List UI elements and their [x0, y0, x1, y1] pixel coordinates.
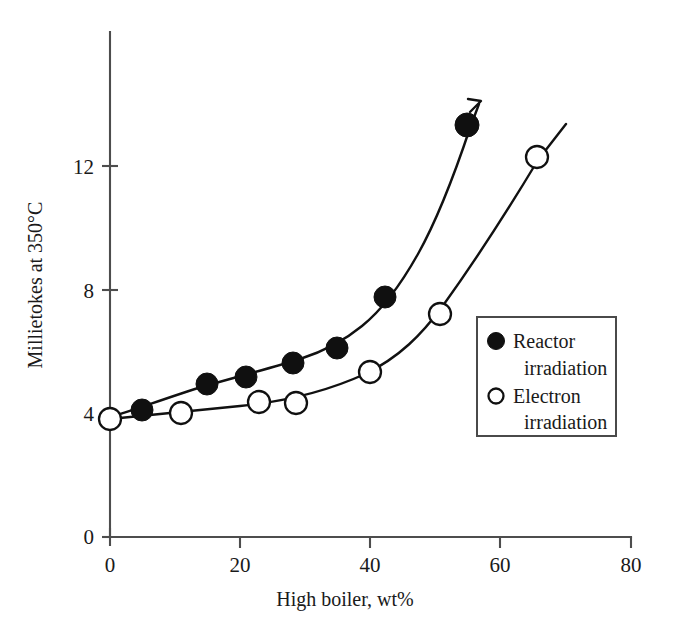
data-point-open	[170, 402, 192, 424]
y-tick-label-8: 8	[84, 279, 95, 303]
legend-label-reactor-line2: irradiation	[524, 357, 607, 379]
x-tick-label-0: 0	[105, 553, 116, 577]
x-tick-label-20: 20	[230, 553, 251, 577]
y-tick-label-4: 4	[84, 402, 95, 426]
legend-filled-circle-icon	[488, 333, 505, 350]
data-point-open	[429, 303, 451, 325]
legend: Reactor irradiation Electron irradiation	[477, 317, 616, 436]
data-point-open	[99, 408, 121, 430]
data-point-filled	[326, 337, 348, 359]
x-tick-label-40: 40	[360, 553, 381, 577]
y-tick-label-0: 0	[84, 525, 95, 549]
reactor-irradiation-markers	[131, 113, 479, 421]
data-point-filled	[196, 373, 218, 395]
axis-group	[110, 32, 631, 537]
data-point-filled	[235, 366, 257, 388]
x-tick-label-80: 80	[621, 553, 642, 577]
data-point-filled	[131, 399, 153, 421]
legend-open-circle-icon	[489, 389, 504, 404]
y-tick-label-12: 12	[73, 155, 94, 179]
data-point-open	[526, 146, 548, 168]
x-axis-title: High boiler, wt%	[276, 588, 414, 611]
data-point-filled	[282, 352, 304, 374]
data-point-filled	[374, 286, 396, 308]
y-tick-group: 0 4 8 12	[73, 155, 118, 549]
data-point-open	[248, 391, 270, 413]
legend-label-reactor-line1: Reactor	[513, 330, 576, 352]
chart-figure: 0 4 8 12 0 20 40 60 80 Millietokes at 35…	[0, 0, 689, 629]
data-point-filled	[455, 113, 479, 137]
data-point-open	[285, 392, 307, 414]
legend-label-electron-line2: irradiation	[524, 411, 607, 433]
x-tick-label-60: 60	[490, 553, 511, 577]
chart-svg: 0 4 8 12 0 20 40 60 80 Millietokes at 35…	[0, 0, 689, 629]
legend-label-electron-line1: Electron	[513, 385, 581, 407]
data-point-open	[359, 361, 381, 383]
y-axis-title: Millietokes at 350°C	[24, 202, 46, 369]
x-tick-group: 0 20 40 60 80	[105, 528, 642, 577]
